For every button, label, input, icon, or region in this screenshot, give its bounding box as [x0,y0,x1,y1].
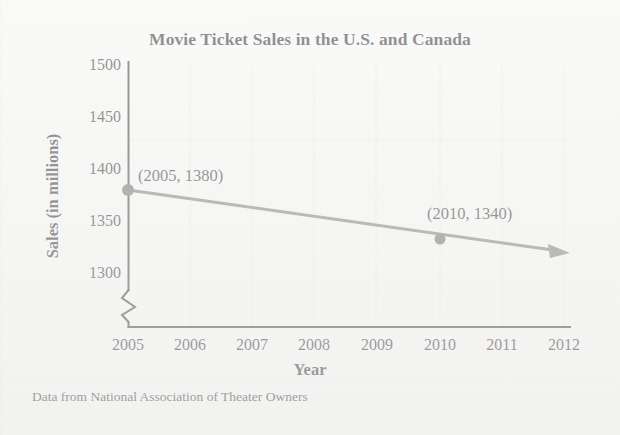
data-point-2005 [122,184,134,196]
x-tick-2006: 2006 [174,336,206,353]
x-tick-2010: 2010 [424,336,456,353]
y-tick-1350: 1350 [89,212,121,229]
chart-title: Movie Ticket Sales in the U.S. and Canad… [149,29,471,49]
movie-ticket-sales-chart: Movie Ticket Sales in the U.S. and Canad… [0,0,620,435]
y-axis-title: Sales (in millions) [43,134,62,259]
x-tick-2005: 2005 [112,336,144,353]
annotation-2005: (2005, 1380) [138,166,223,185]
x-tick-2009: 2009 [361,336,393,353]
y-tick-1500: 1500 [89,56,121,73]
source-note: Data from National Association of Theate… [32,389,308,404]
y-tick-1400: 1400 [89,160,121,177]
annotation-2010: (2010, 1340) [427,204,512,223]
x-tick-2011: 2011 [486,336,517,353]
x-axis-title: Year [294,360,327,379]
data-point-2010 [435,234,446,245]
figure-container: Movie Ticket Sales in the U.S. and Canad… [0,0,620,435]
x-tick-2008: 2008 [298,336,330,353]
x-tick-2012: 2012 [548,336,580,353]
y-tick-1300: 1300 [89,264,121,281]
x-tick-2007: 2007 [236,336,268,353]
y-tick-1450: 1450 [89,108,121,125]
